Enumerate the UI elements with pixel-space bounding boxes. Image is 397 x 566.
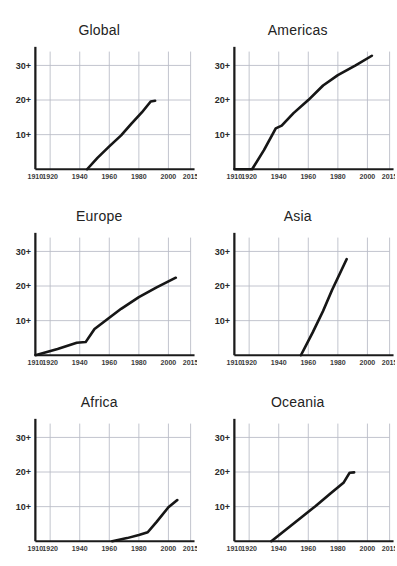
- x-tick-label-1920: 1920: [42, 359, 58, 366]
- y-tick-label-20+: 20+: [214, 281, 229, 291]
- panel-europe: Europe10+20+30+1910192019401960198020002…: [0, 194, 199, 380]
- plot-svg-europe: 10+20+30+1910192019401960198020002015: [0, 230, 197, 378]
- y-tick-label-10+: 10+: [16, 316, 31, 326]
- x-tick-label-1980: 1980: [131, 359, 147, 366]
- x-tick-label-1940: 1940: [72, 545, 88, 552]
- y-tick-label-30+: 30+: [214, 433, 229, 443]
- y-tick-label-20+: 20+: [16, 467, 31, 477]
- x-tick-label-1910: 1910: [28, 359, 44, 366]
- plot-svg-americas: 10+20+30+1910192019401960198020002015: [199, 44, 396, 192]
- panel-oceania: Oceania10+20+30+191019201940196019802000…: [199, 380, 397, 566]
- x-tick-label-1960: 1960: [101, 173, 117, 180]
- x-tick-label-1980: 1980: [330, 545, 346, 552]
- x-tick-label-1920: 1920: [241, 173, 257, 180]
- x-tick-label-2015: 2015: [183, 173, 197, 180]
- y-tick-label-10+: 10+: [16, 130, 31, 140]
- x-tick-label-2000: 2000: [359, 545, 375, 552]
- x-tick-label-1920: 1920: [42, 545, 58, 552]
- plot-area-global: 10+20+30+1910192019401960198020002015: [0, 44, 197, 192]
- y-tick-label-20+: 20+: [214, 95, 229, 105]
- y-tick-label-20+: 20+: [16, 281, 31, 291]
- plot-area-oceania: 10+20+30+1910192019401960198020002015: [199, 416, 396, 564]
- panel-title-europe: Europe: [0, 208, 199, 224]
- x-tick-label-2015: 2015: [183, 545, 197, 552]
- x-tick-label-1920: 1920: [241, 545, 257, 552]
- x-tick-label-1940: 1940: [270, 359, 286, 366]
- panel-title-americas: Americas: [199, 22, 397, 38]
- plot-svg-asia: 10+20+30+1910192019401960198020002015: [199, 230, 396, 378]
- y-tick-label-30+: 30+: [214, 61, 229, 71]
- panel-title-oceania: Oceania: [199, 394, 397, 410]
- x-tick-label-1960: 1960: [300, 359, 316, 366]
- x-tick-label-1940: 1940: [72, 359, 88, 366]
- x-tick-label-2015: 2015: [381, 173, 395, 180]
- data-line-europe: [35, 278, 175, 356]
- y-tick-label-10+: 10+: [214, 130, 229, 140]
- x-tick-label-2000: 2000: [359, 173, 375, 180]
- panel-americas: Americas10+20+30+19101920194019601980200…: [199, 8, 397, 194]
- x-tick-label-1920: 1920: [241, 359, 257, 366]
- x-tick-label-1980: 1980: [131, 173, 147, 180]
- y-tick-label-30+: 30+: [16, 61, 31, 71]
- plot-area-asia: 10+20+30+1910192019401960198020002015: [199, 230, 396, 378]
- x-tick-label-1940: 1940: [72, 173, 88, 180]
- y-tick-label-10+: 10+: [16, 502, 31, 512]
- plot-area-europe: 10+20+30+1910192019401960198020002015: [0, 230, 197, 378]
- x-tick-label-2000: 2000: [161, 359, 177, 366]
- x-tick-label-1960: 1960: [101, 545, 117, 552]
- panel-title-global: Global: [0, 22, 199, 38]
- x-tick-label-1920: 1920: [42, 173, 58, 180]
- x-tick-label-1960: 1960: [101, 359, 117, 366]
- x-tick-label-2015: 2015: [381, 545, 395, 552]
- data-line-asia: [300, 259, 346, 355]
- x-tick-label-1940: 1940: [270, 545, 286, 552]
- x-tick-label-1940: 1940: [270, 173, 286, 180]
- y-tick-label-30+: 30+: [16, 433, 31, 443]
- x-tick-label-1910: 1910: [28, 545, 44, 552]
- x-tick-label-1960: 1960: [300, 545, 316, 552]
- panel-title-asia: Asia: [199, 208, 397, 224]
- small-multiples-grid: Global10+20+30+1910192019401960198020002…: [0, 8, 397, 566]
- y-tick-label-20+: 20+: [214, 467, 229, 477]
- x-tick-label-1980: 1980: [131, 545, 147, 552]
- clipped-page-title: [0, 0, 397, 1]
- x-tick-label-1960: 1960: [300, 173, 316, 180]
- x-tick-label-1910: 1910: [226, 545, 242, 552]
- y-tick-label-30+: 30+: [214, 247, 229, 257]
- y-tick-label-10+: 10+: [214, 316, 229, 326]
- y-tick-label-20+: 20+: [16, 95, 31, 105]
- plot-svg-global: 10+20+30+1910192019401960198020002015: [0, 44, 197, 192]
- x-tick-label-1980: 1980: [330, 359, 346, 366]
- y-tick-label-30+: 30+: [16, 247, 31, 257]
- x-tick-label-2000: 2000: [161, 173, 177, 180]
- plot-svg-africa: 10+20+30+1910192019401960198020002015: [0, 416, 197, 564]
- plot-area-americas: 10+20+30+1910192019401960198020002015: [199, 44, 396, 192]
- panel-global: Global10+20+30+1910192019401960198020002…: [0, 8, 199, 194]
- x-tick-label-2000: 2000: [161, 545, 177, 552]
- x-tick-label-1910: 1910: [28, 173, 44, 180]
- y-tick-label-10+: 10+: [214, 502, 229, 512]
- x-tick-label-2015: 2015: [381, 359, 395, 366]
- x-tick-label-1910: 1910: [226, 173, 242, 180]
- x-tick-label-1910: 1910: [226, 359, 242, 366]
- chart-page: Global10+20+30+1910192019401960198020002…: [0, 0, 397, 566]
- panel-asia: Asia10+20+30+191019201940196019802000201…: [199, 194, 397, 380]
- panel-title-africa: Africa: [0, 394, 199, 410]
- plot-svg-oceania: 10+20+30+1910192019401960198020002015: [199, 416, 396, 564]
- x-tick-label-2015: 2015: [183, 359, 197, 366]
- data-line-americas: [234, 56, 371, 169]
- x-tick-label-1980: 1980: [330, 173, 346, 180]
- plot-area-africa: 10+20+30+1910192019401960198020002015: [0, 416, 197, 564]
- panel-africa: Africa10+20+30+1910192019401960198020002…: [0, 380, 199, 566]
- x-tick-label-2000: 2000: [359, 359, 375, 366]
